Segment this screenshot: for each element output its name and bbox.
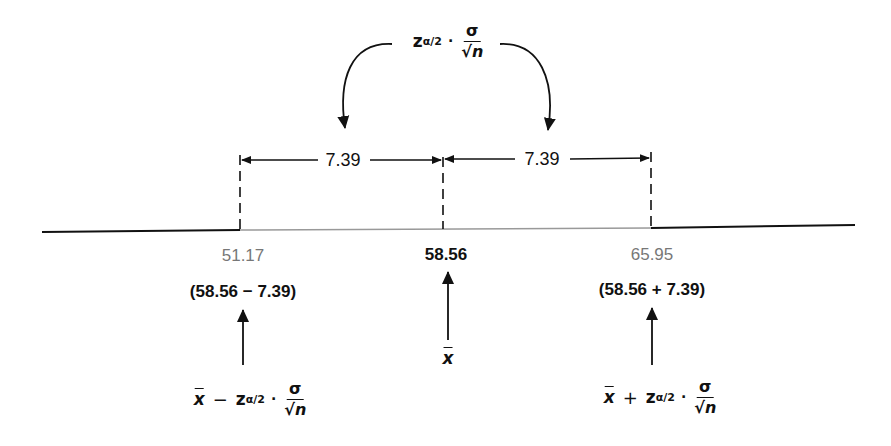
xbar-symbol: x bbox=[443, 348, 454, 368]
multiply-dot: · bbox=[681, 389, 686, 405]
minus-operator: − bbox=[213, 389, 228, 410]
multiply-dot: · bbox=[271, 391, 276, 407]
sigma: σ bbox=[287, 380, 303, 400]
dashed-markers bbox=[240, 152, 651, 230]
upper-bound-value: 65.95 bbox=[631, 246, 674, 263]
xbar-label: x bbox=[443, 348, 454, 368]
n-var: n bbox=[472, 42, 483, 61]
sample-mean-value: 58.56 bbox=[425, 246, 468, 263]
sigma-over-root-n: σ √n bbox=[284, 380, 306, 419]
number-line bbox=[42, 225, 855, 232]
root-n: √n bbox=[284, 400, 306, 419]
sigma-over-root-n: σ √n bbox=[461, 22, 483, 61]
lower-bound-formula: x − zα/2 · σ √n bbox=[194, 380, 307, 419]
upper-bound-formula: x + zα/2 · σ √n bbox=[604, 378, 717, 417]
lower-bound-expression: (58.56 − 7.39) bbox=[190, 283, 296, 300]
root-n: √n bbox=[461, 42, 483, 61]
sqrt-symbol: √ bbox=[694, 398, 705, 417]
distance-arrows bbox=[242, 158, 649, 160]
z-symbol: z bbox=[236, 389, 246, 409]
left-distance-label: 7.39 bbox=[322, 151, 363, 169]
sigma-over-root-n: σ √n bbox=[694, 378, 716, 417]
z-subscript: α/2 bbox=[656, 391, 675, 404]
z-subscript: α/2 bbox=[423, 35, 442, 48]
xbar-symbol: x bbox=[604, 387, 615, 407]
z-subscript: α/2 bbox=[246, 393, 265, 406]
sqrt-symbol: √ bbox=[461, 42, 472, 61]
margin-of-error-formula: zα/2 · σ √n bbox=[413, 22, 484, 61]
right-distance-label: 7.39 bbox=[521, 150, 562, 168]
z-symbol: z bbox=[646, 387, 656, 407]
sigma: σ bbox=[464, 22, 480, 42]
multiply-dot: · bbox=[448, 33, 453, 49]
sigma: σ bbox=[697, 378, 713, 398]
root-n: √n bbox=[694, 398, 716, 417]
upper-bound-expression: (58.56 + 7.39) bbox=[599, 281, 705, 298]
lower-bound-value: 51.17 bbox=[222, 247, 265, 264]
n-var: n bbox=[705, 398, 716, 417]
n-var: n bbox=[295, 400, 306, 419]
diagram-canvas bbox=[0, 0, 891, 446]
sqrt-symbol: √ bbox=[284, 400, 295, 419]
plus-operator: + bbox=[623, 387, 638, 408]
z-symbol: z bbox=[413, 31, 423, 51]
xbar-symbol: x bbox=[194, 389, 205, 409]
